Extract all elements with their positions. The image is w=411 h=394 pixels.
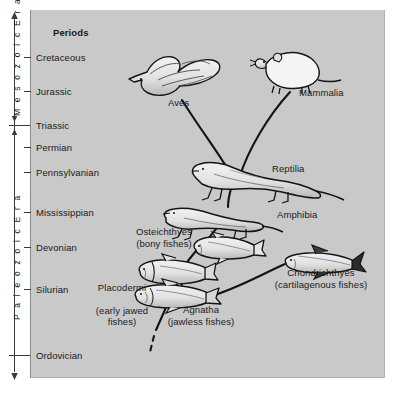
period-label-permian: Permian bbox=[36, 142, 72, 153]
period-column-header: Periods bbox=[53, 27, 89, 38]
era-boundary-arrow-down bbox=[12, 129, 17, 135]
period-label-triassic: Triassic bbox=[36, 120, 69, 131]
taxon-label-mammalia: Mammalia bbox=[299, 87, 344, 99]
taxon-sub-osteichthyes: (bony fishes) bbox=[118, 238, 210, 250]
era-axis-arrow-down bbox=[11, 373, 18, 380]
period-label-silurian: Silurian bbox=[36, 284, 68, 295]
period-label-ordovician: Ordovician bbox=[36, 350, 82, 361]
period-label-pennsylvanian: Pennsylvanian bbox=[36, 167, 99, 178]
taxon-label-reptilia: Reptilia bbox=[272, 163, 304, 175]
period-label-cretaceous: Cretaceous bbox=[36, 52, 86, 63]
period-label-mississippian: Mississippian bbox=[36, 207, 94, 218]
illustration-aves bbox=[129, 57, 220, 96]
taxon-label-agnatha: Agnatha (jawless fishes) bbox=[148, 304, 254, 327]
period-label-jurassic: Jurassic bbox=[36, 86, 72, 97]
illustration-reptilia bbox=[192, 163, 344, 203]
period-ticks bbox=[24, 58, 31, 290]
taxon-name-osteichthyes: Osteichthyes bbox=[118, 226, 210, 238]
taxon-label-chondrichthyes: Chondrichthyes (cartilagenous fishes) bbox=[258, 267, 384, 290]
era-label-paleozoic: P a l e o z o i c E r a bbox=[12, 193, 22, 320]
taxon-sub-chondrichthyes: (cartilagenous fishes) bbox=[258, 279, 384, 291]
taxon-label-osteichthyes: Osteichthyes (bony fishes) bbox=[118, 226, 210, 249]
taxon-label-aves: Aves bbox=[168, 97, 189, 109]
evolutionary-tree-figure: M e s o z o i c E r a P a l e o z o i c … bbox=[0, 0, 411, 394]
period-label-devonian: Devonian bbox=[36, 242, 77, 253]
taxon-label-amphibia: Amphibia bbox=[277, 209, 317, 221]
taxon-sub-agnatha: (jawless fishes) bbox=[148, 316, 254, 328]
taxon-name-chondrichthyes: Chondrichthyes bbox=[258, 267, 384, 279]
era-label-mesozoic: M e s o z o i c E r a bbox=[12, 0, 22, 116]
taxon-name-agnatha: Agnatha bbox=[148, 304, 254, 316]
era-boundary-arrow-up bbox=[12, 116, 17, 122]
taxon-name-placodermi: Placodermi bbox=[76, 282, 168, 294]
